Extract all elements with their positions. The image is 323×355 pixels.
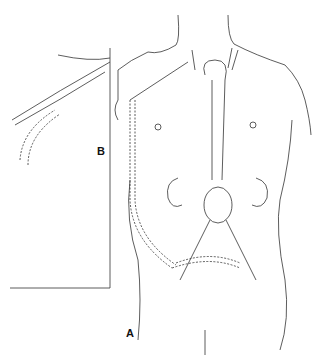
nipples — [155, 122, 256, 130]
panel-a-label: A — [126, 327, 134, 339]
aorta — [180, 48, 256, 280]
anatomical-illustration — [0, 0, 323, 355]
inset-b — [10, 48, 110, 288]
axillary-artery — [130, 62, 188, 100]
panel-b-label: B — [97, 145, 105, 157]
kidneys — [167, 178, 267, 206]
torso-outline — [115, 15, 311, 355]
